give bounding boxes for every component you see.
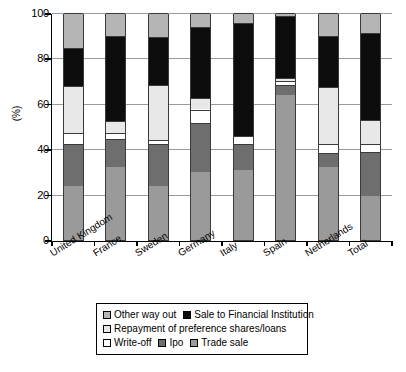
y-axis-label: (%): [11, 84, 22, 144]
bar-segment-repayment-of-preference-shares-loans: [106, 121, 125, 133]
legend-label-sale-to-financial-institution: Sale to Financial Institution: [194, 310, 314, 320]
bar-segment-other-way-out: [361, 13, 380, 33]
bar-segment-ipo: [319, 153, 338, 168]
chart-legend: Other way outSale to Financial Instituti…: [96, 303, 308, 355]
legend-entry-trade-sale[interactable]: Trade sale: [190, 338, 248, 348]
bar-segment-write-off: [106, 133, 125, 139]
x-tick-mark-8: [391, 241, 393, 246]
legend-entry-ipo[interactable]: Ipo: [158, 338, 183, 348]
bar-segment-write-off: [361, 144, 380, 152]
bar-segment-other-way-out: [191, 13, 210, 27]
legend-label-repayment-of-preference-shares-loans: Repayment of preference shares/loans: [114, 324, 286, 334]
gridlines: [52, 14, 392, 241]
bar-germany[interactable]: [190, 14, 211, 241]
bar-segment-sale-to-financial-institution: [234, 23, 253, 135]
bar-segment-other-way-out: [276, 13, 295, 16]
bar-segment-other-way-out: [319, 13, 338, 36]
bar-segment-repayment-of-preference-shares-loans: [191, 98, 210, 109]
legend-swatch-trade-sale: [190, 339, 198, 347]
bar-segment-ipo: [234, 144, 253, 170]
legend-swatch-other-way-out: [103, 311, 111, 319]
legend-entry-repayment-of-preference-shares-loans[interactable]: Repayment of preference shares/loans: [103, 324, 286, 334]
bar-segment-sale-to-financial-institution: [276, 16, 295, 77]
bar-segment-trade-sale: [276, 95, 295, 240]
legend-row-3: Write-offIpoTrade sale: [103, 336, 302, 350]
bar-segment-write-off: [276, 81, 295, 84]
stacked-bar-chart-figure: (%) 100806040200 United KingdomFranceSwe…: [0, 0, 406, 372]
bar-segment-repayment-of-preference-shares-loans: [319, 87, 338, 144]
bar-segment-other-way-out: [64, 13, 83, 48]
bar-total[interactable]: [360, 14, 381, 241]
bar-segment-write-off: [319, 144, 338, 153]
bar-segment-repayment-of-preference-shares-loans: [361, 120, 380, 144]
legend-row-1: Other way outSale to Financial Instituti…: [103, 308, 302, 322]
bar-segment-ipo: [276, 85, 295, 95]
legend-label-write-off: Write-off: [114, 338, 151, 348]
legend-swatch-sale-to-financial-institution: [183, 311, 191, 319]
legend-swatch-repayment-of-preference-shares-loans: [103, 325, 111, 333]
bar-segment-trade-sale: [106, 167, 125, 240]
bar-segment-sale-to-financial-institution: [191, 27, 210, 99]
bar-italy[interactable]: [233, 14, 254, 241]
bar-segment-other-way-out: [106, 13, 125, 36]
gridline-100: [52, 13, 392, 14]
bar-segment-write-off: [64, 133, 83, 143]
bar-segment-ipo: [361, 152, 380, 196]
bar-netherlands[interactable]: [318, 14, 339, 241]
plot-area: [51, 14, 392, 242]
gridline-20: [52, 195, 392, 196]
bar-segment-trade-sale: [361, 196, 380, 240]
legend-entry-write-off[interactable]: Write-off: [103, 338, 151, 348]
legend-label-trade-sale: Trade sale: [201, 338, 248, 348]
legend-label-other-way-out: Other way out: [114, 310, 176, 320]
bar-segment-other-way-out: [234, 13, 253, 23]
bar-segment-write-off: [191, 110, 210, 124]
bar-segment-ipo: [191, 123, 210, 172]
bar-united-kingdom[interactable]: [63, 14, 84, 241]
bar-segment-sale-to-financial-institution: [149, 37, 168, 85]
legend-row-2: Repayment of preference shares/loans: [103, 322, 302, 336]
bar-segment-sale-to-financial-institution: [106, 36, 125, 121]
bar-segment-ipo: [149, 144, 168, 186]
legend-entry-other-way-out[interactable]: Other way out: [103, 310, 176, 320]
bar-sweden[interactable]: [148, 14, 169, 241]
legend-swatch-ipo: [158, 339, 166, 347]
bar-segment-other-way-out: [149, 13, 168, 37]
gridline-40: [52, 149, 392, 150]
bar-segment-ipo: [106, 139, 125, 167]
bar-segment-ipo: [64, 144, 83, 186]
bar-segment-sale-to-financial-institution: [64, 48, 83, 85]
bar-segment-sale-to-financial-institution: [361, 33, 380, 119]
gridline-60: [52, 104, 392, 105]
bar-segment-write-off: [149, 140, 168, 143]
legend-label-ipo: Ipo: [169, 338, 183, 348]
bar-segment-sale-to-financial-institution: [319, 36, 338, 87]
bar-segment-trade-sale: [234, 170, 253, 240]
bar-france[interactable]: [105, 14, 126, 241]
legend-entry-sale-to-financial-institution[interactable]: Sale to Financial Institution: [183, 310, 314, 320]
legend-swatch-write-off: [103, 339, 111, 347]
bar-segment-repayment-of-preference-shares-loans: [276, 78, 295, 81]
bar-segment-repayment-of-preference-shares-loans: [149, 85, 168, 141]
bar-segment-write-off: [234, 136, 253, 144]
bar-spain[interactable]: [275, 14, 296, 241]
bar-segment-repayment-of-preference-shares-loans: [64, 86, 83, 134]
gridline-80: [52, 58, 392, 59]
